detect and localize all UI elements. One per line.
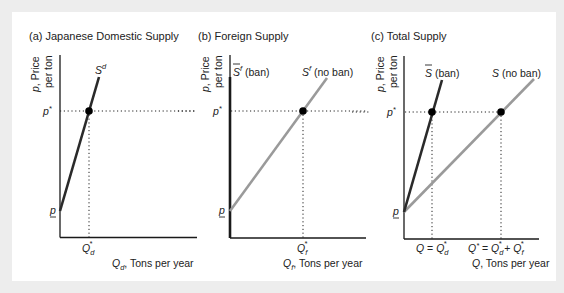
y-label-line2: per ton — [42, 55, 54, 88]
panel-a-title: (a) Japanese Domestic Supply — [29, 30, 179, 42]
svg-text:pp, Price, Price: pp, Price, Price — [29, 56, 41, 93]
qf-star-tick: Qf* — [297, 239, 308, 257]
panel-b-title: (b) Foreign Supply — [198, 30, 289, 42]
s-no-ban-label: S (no ban) — [492, 67, 541, 79]
sf-ban-label: Sf (ban) — [233, 64, 270, 78]
equilibrium-point — [85, 107, 93, 115]
foreign-supply-no-ban-curve — [230, 78, 327, 211]
p-star-label: p* — [42, 104, 53, 117]
panel-c-title: (c) Total Supply — [371, 30, 447, 42]
sd-label: Sd — [95, 62, 107, 76]
qd-star-tick: Qd* — [82, 239, 95, 257]
panel-a-y-label: pp, Price, Price per ton — [29, 55, 54, 93]
x-axis-label-b: Qf, Tons per year — [283, 257, 363, 272]
panel-b-y-label: p, Price per ton — [199, 55, 224, 93]
y-label-line2: per ton — [387, 55, 399, 88]
q-ban-tick: Q = Qd* — [416, 239, 449, 257]
svg-text:p, Price: p, Price — [199, 56, 211, 93]
s-ban-label: S (ban) — [425, 67, 459, 79]
x-axis-label-c: Q, Tons per year — [472, 257, 550, 269]
sf-no-ban-label: Sf (no ban) — [302, 64, 353, 78]
p-min-label: p — [218, 204, 225, 216]
panel-b: (b) Foreign Supply p, Price per ton Sf (… — [178, 30, 366, 272]
supply-diagram: (a) Japanese Domestic Supply pp, Price, … — [0, 0, 564, 293]
q-star-tick: Q* = Qd* + Qf* — [468, 239, 525, 257]
domestic-supply-curve — [60, 77, 99, 211]
y-label-line2: per ton — [212, 55, 224, 88]
svg-text:p, Price: p, Price — [374, 56, 386, 93]
panel-c: (c) Total Supply p, Price per ton S (ban… — [352, 30, 550, 269]
p-min-label: p — [49, 204, 56, 216]
p-star-label: p* — [212, 104, 223, 117]
p-min-label: p — [392, 205, 399, 217]
equilibrium-no-ban-point — [497, 108, 505, 116]
equilibrium-ban-point — [428, 108, 436, 116]
panel-c-y-label: p, Price per ton — [374, 55, 399, 93]
equilibrium-point — [299, 107, 307, 115]
panel-a: (a) Japanese Domestic Supply pp, Price, … — [29, 30, 197, 272]
x-axis-label-a: Qd, Tons per year — [112, 257, 194, 272]
p-star-label: p* — [386, 105, 397, 118]
